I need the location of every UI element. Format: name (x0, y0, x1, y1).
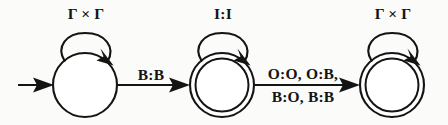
fst-canvas: Γ × Γ B:B I:I O:O, O:B, B:O, B:B (0, 0, 448, 125)
transition-q1-q2-label-line1: O:O, O:B, (268, 65, 338, 82)
fst-diagram: Γ × Γ B:B I:I O:O, O:B, B:O, B:B (0, 0, 448, 125)
self-loop-q0-label: Γ × Γ (68, 5, 105, 22)
start-arrow (18, 78, 54, 93)
transition-q1-q2-label-line2: B:O, B:B (272, 88, 335, 105)
transition-q0-q1-label: B:B (138, 66, 164, 83)
self-loop-q2-label: Γ × Γ (375, 5, 412, 22)
self-loop-q1-label: I:I (214, 5, 232, 22)
